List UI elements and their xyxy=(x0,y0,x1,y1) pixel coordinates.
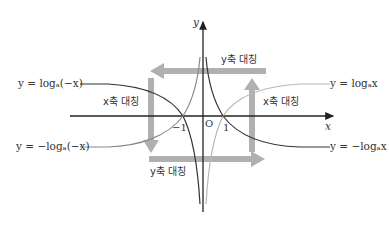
bottom-arrow-shaft xyxy=(149,156,253,162)
curve-log-neg-x xyxy=(80,84,200,204)
top-arrow-shaft xyxy=(162,68,266,74)
left-arrow-shaft xyxy=(148,78,154,142)
bottom-arrow-head xyxy=(251,151,265,167)
x-axis-label: x xyxy=(325,120,331,132)
label-neg-log-x: y = −logₐx xyxy=(329,140,387,152)
label-log-x: y = logₐx xyxy=(329,77,378,89)
symmetry-label-right: x축 대칭 xyxy=(263,96,299,107)
symmetry-label-top: y축 대칭 xyxy=(221,54,257,65)
origin-label: O xyxy=(205,118,213,129)
tick-neg-one: −1 xyxy=(172,122,187,133)
log-symmetry-diagram: y x O 1 −1 y = logₐ(−x) y = −logₐ(−x) y … xyxy=(0,0,389,229)
tick-pos-one: 1 xyxy=(223,122,229,133)
label-log-neg-x: y = logₐ(−x) xyxy=(17,77,83,89)
symmetry-arrows xyxy=(143,63,266,167)
symmetry-label-bottom: y축 대칭 xyxy=(150,166,186,177)
symmetry-label-left: x축 대칭 xyxy=(103,96,139,107)
label-neg-log-neg-x: y = −logₐ(−x) xyxy=(15,140,90,152)
y-axis-label: y xyxy=(192,16,200,28)
left-arrow-head xyxy=(143,140,159,153)
right-arrow-shaft xyxy=(249,88,255,152)
right-arrow-head xyxy=(244,78,260,90)
top-arrow-head xyxy=(150,63,164,79)
